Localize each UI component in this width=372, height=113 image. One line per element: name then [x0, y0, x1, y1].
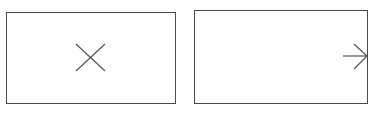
panel-left [6, 12, 176, 104]
panel-right [194, 10, 368, 104]
